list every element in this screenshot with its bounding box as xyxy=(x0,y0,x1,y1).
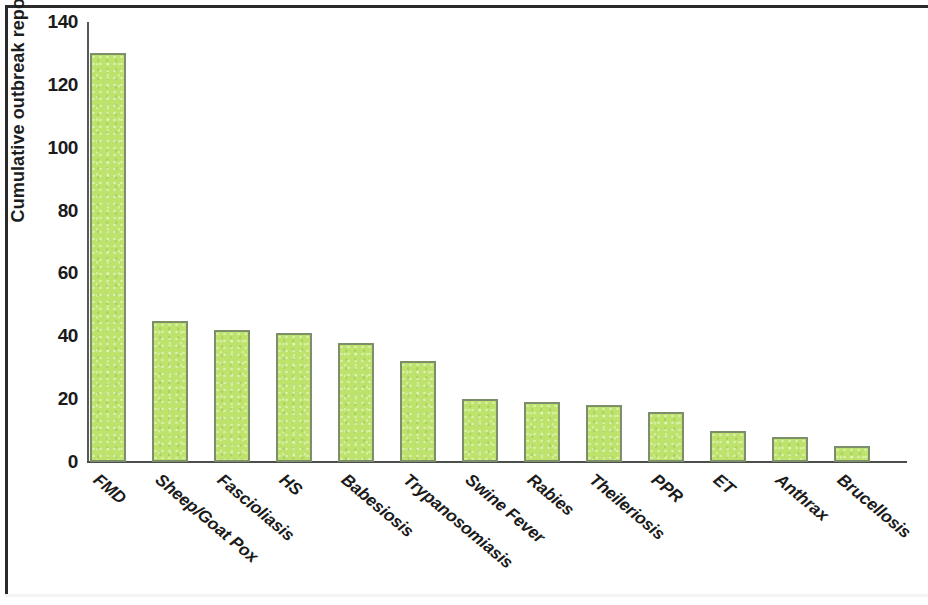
x-axis-tick-label: Trypanosomiasis xyxy=(399,470,516,573)
y-axis-tick-label: 20 xyxy=(58,388,88,410)
chart-figure: Cumulative outbreak reports 020406080100… xyxy=(0,0,928,605)
bar xyxy=(710,431,746,462)
x-axis-tick-label: Brucellosis xyxy=(833,470,914,543)
bar xyxy=(276,333,312,462)
x-axis-tick-label: HS xyxy=(275,470,306,500)
bar xyxy=(152,321,188,462)
bar xyxy=(586,405,622,462)
y-axis-tick-label: 120 xyxy=(47,74,88,96)
y-axis-tick-label: 80 xyxy=(58,200,88,222)
x-axis-tick-label: Anthrax xyxy=(771,470,832,526)
figure-frame-bottom-border xyxy=(5,594,928,597)
x-axis-tick-label: PPR xyxy=(647,470,686,507)
bar xyxy=(400,361,436,462)
y-axis-tick-label: 60 xyxy=(58,262,88,284)
bar xyxy=(214,330,250,462)
figure-frame-top-border xyxy=(5,5,928,8)
x-axis-tick-label: Rabies xyxy=(523,470,578,520)
bar xyxy=(462,399,498,462)
y-axis-tick-label: 100 xyxy=(47,137,88,159)
y-axis-title: Cumulative outbreak reports xyxy=(8,0,29,264)
bar xyxy=(648,412,684,462)
y-axis-tick-label: 40 xyxy=(58,325,88,347)
bar xyxy=(834,446,870,462)
x-axis-tick-label: Sheep/Goat Pox xyxy=(151,470,262,567)
y-axis-tick-label: 140 xyxy=(47,11,88,33)
x-axis-tick-label: FMD xyxy=(89,470,130,509)
plot-area xyxy=(88,22,908,462)
y-axis-tick-label: 0 xyxy=(68,451,88,473)
bar xyxy=(338,343,374,462)
bar xyxy=(524,402,560,462)
bar xyxy=(772,437,808,462)
x-axis-tick-label: ET xyxy=(709,470,738,499)
bar xyxy=(90,53,126,462)
